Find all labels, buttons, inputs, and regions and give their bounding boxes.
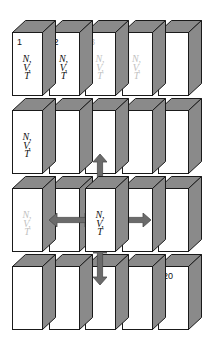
ensemble-line-t: T xyxy=(12,228,42,237)
cell-right-face xyxy=(152,177,165,252)
cell-right-face xyxy=(43,99,56,174)
cell-right-face xyxy=(116,177,129,252)
cell-right-face xyxy=(189,177,202,252)
cell-right-face xyxy=(79,99,92,174)
cell-right-face xyxy=(189,21,202,96)
cell-right-face xyxy=(189,99,202,174)
ensemble-label-center: N,V,T xyxy=(85,211,115,237)
cell-right-face xyxy=(79,21,92,96)
ensemble-label-r2c1: N,V,T xyxy=(12,133,42,159)
cell-shaded-faces-r4c1 xyxy=(12,254,57,331)
ensemble-line-t: T xyxy=(12,150,42,159)
cell-right-face xyxy=(152,255,165,330)
ensemble-line-t: T xyxy=(85,228,115,237)
cell-right-face xyxy=(152,21,165,96)
diagram-canvas: N,V,T3N,V,T2N,V,T1N,V,TN,V,TN,V,T20N,V,T xyxy=(0,0,212,339)
simulation-cell-r4c1 xyxy=(12,254,57,331)
cell-right-face xyxy=(116,21,129,96)
ensemble-line-t: T xyxy=(12,72,42,81)
cell-right-face xyxy=(189,255,202,330)
cell-right-face xyxy=(116,99,129,174)
cell-front-face xyxy=(13,267,43,330)
ensemble-label-r1c1: N,V,T xyxy=(12,55,42,81)
cell-right-face xyxy=(116,255,129,330)
cell-number-label-r1c1: 1 xyxy=(17,38,22,47)
ensemble-label-r3c1: N,V,T xyxy=(12,211,42,237)
cell-right-face xyxy=(43,21,56,96)
cell-right-face xyxy=(152,99,165,174)
cell-right-face xyxy=(43,255,56,330)
simulation-cell-r1c1: 1N,V,T xyxy=(12,20,57,97)
cell-right-face xyxy=(79,255,92,330)
simulation-cell-r2c1: N,V,T xyxy=(12,98,57,175)
